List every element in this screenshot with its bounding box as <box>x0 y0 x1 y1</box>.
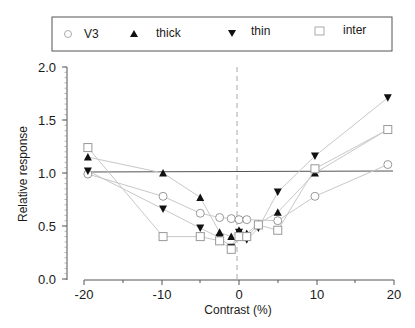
legend-label-v3: V3 <box>84 27 99 41</box>
x-tick-label: 20 <box>387 287 401 302</box>
data-point-V3 <box>274 217 282 225</box>
y-tick-label: 2.0 <box>38 60 56 75</box>
data-point-thin <box>196 225 204 233</box>
y-tick-label: 1.5 <box>38 113 56 128</box>
data-point-V3 <box>196 209 204 217</box>
data-point-V3 <box>311 192 319 200</box>
series-line-V3 <box>88 165 388 221</box>
data-point-inter <box>243 233 251 241</box>
y-tick-label: 0.0 <box>38 272 56 287</box>
series-line-thin <box>88 98 388 247</box>
data-point-V3 <box>159 192 167 200</box>
data-point-inter <box>196 233 204 241</box>
data-point-V3 <box>227 215 235 223</box>
legend-label-inter: inter <box>343 23 366 37</box>
data-point-inter <box>274 226 282 234</box>
legend: V3 thick thin inter <box>52 17 392 51</box>
data-point-inter <box>159 233 167 241</box>
legend-label-thin: thin <box>251 24 270 38</box>
data-point-inter <box>227 245 235 253</box>
circle-open-icon <box>65 31 72 38</box>
y-tick-labels: 2.0 1.5 1.0 0.5 0.0 <box>38 60 56 287</box>
data-point-V3 <box>216 214 224 222</box>
chart-canvas: V3 thick thin inter 2.0 1.5 1.0 0.5 0.0 … <box>0 0 415 328</box>
data-point-inter <box>311 165 319 173</box>
x-tick-label: -10 <box>153 287 172 302</box>
data-point-thick <box>196 193 204 201</box>
x-tick-label: -20 <box>75 287 94 302</box>
x-axis <box>84 280 394 285</box>
y-tick-label: 1.0 <box>38 166 56 181</box>
data-point-inter <box>216 237 224 245</box>
y-axis <box>62 67 67 280</box>
legend-box <box>52 17 392 51</box>
data-point-V3 <box>235 216 243 224</box>
data-point-V3 <box>384 161 392 169</box>
data-point-inter <box>384 126 392 134</box>
data-point-V3 <box>243 216 251 224</box>
data-point-inter <box>235 233 243 241</box>
x-tick-label: 0 <box>235 287 242 302</box>
x-tick-labels: -20 -10 0 10 20 <box>75 287 402 302</box>
x-axis-label: Contrast (%) <box>204 303 271 317</box>
legend-label-thick: thick <box>156 26 182 40</box>
data-point-inter <box>84 144 92 152</box>
data-point-thin <box>159 206 167 214</box>
y-axis-label: Relative response <box>16 126 30 222</box>
unity-reference-line <box>84 171 393 172</box>
data-point-thin <box>274 189 282 197</box>
data-point-inter <box>254 221 262 229</box>
x-tick-label: 10 <box>310 287 324 302</box>
y-tick-label: 0.5 <box>38 219 56 234</box>
square-open-icon <box>315 27 324 35</box>
data-point-thick <box>84 153 92 161</box>
plot-area <box>84 94 392 253</box>
